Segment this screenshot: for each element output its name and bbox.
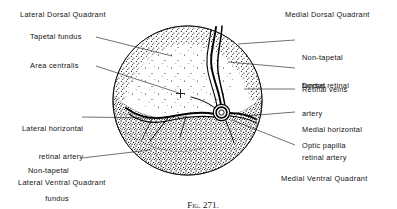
label-lateral-horizontal-retinal-artery-line1: Lateral horizontal — [22, 124, 83, 133]
label-medial-horizontal-retinal-artery-line1: Medial horizontal — [302, 125, 362, 134]
label-tapetal-fundus: Tapetal fundus — [30, 32, 82, 41]
label-retinal-veins: Retinal veins — [302, 85, 348, 94]
label-medial-ventral-quadrant: Medial Ventral Quadrant — [281, 174, 368, 183]
label-area-centralis: Area centralis — [30, 61, 79, 70]
label-optic-papilla: Optic papilla — [302, 141, 346, 150]
label-lateral-ventral-quadrant: Lateral Ventral Quadrant — [18, 178, 106, 187]
fundus-globe — [113, 26, 262, 182]
label-medial-horizontal-retinal-artery-line2: retinal artery — [302, 153, 362, 162]
label-non-tapetal-fundus-lateral-line1: Non-tapetal — [28, 166, 69, 175]
label-medial-dorsal-quadrant: Medial Dorsal Quadrant — [285, 10, 370, 19]
label-non-tapetal-fundus-medial-line1: Non-tapetal — [302, 53, 343, 62]
leader-non-tapetal-right — [238, 40, 295, 44]
figure-page: Lateral Dorsal Quadrant Tapetal fundus A… — [0, 0, 397, 209]
figure-number: Fig. 271. — [187, 200, 219, 209]
optic-papilla — [213, 104, 229, 120]
figure-caption: Fig. 271. The fundus. — [0, 190, 397, 209]
label-lateral-dorsal-quadrant: Lateral Dorsal Quadrant — [20, 10, 106, 19]
